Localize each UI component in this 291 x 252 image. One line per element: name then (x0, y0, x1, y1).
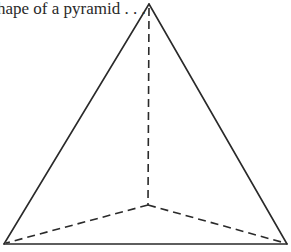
dashed-edge-vertical (148, 8, 149, 205)
dashed-edge-center-left (6, 205, 148, 243)
solid-edge-left (4, 4, 149, 244)
pyramid-diagram (0, 0, 291, 252)
solid-edge-right (149, 4, 287, 244)
dashed-edge-center-right (148, 205, 285, 243)
